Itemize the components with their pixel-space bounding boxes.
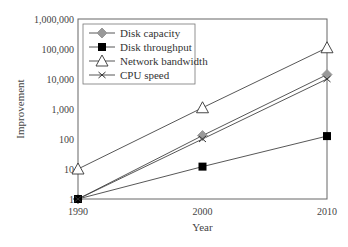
x-tick-label: 2010 — [317, 206, 337, 217]
square-marker — [323, 132, 331, 140]
diamond-marker — [322, 70, 332, 80]
x-tick-label: 1990 — [68, 206, 88, 217]
triangle-open-marker — [321, 42, 333, 53]
y-tick-label: 100 — [59, 134, 74, 145]
y-tick-label: 10,000 — [47, 74, 75, 85]
legend-label: Disk capacity — [120, 27, 181, 39]
y-tick-label: 100,000 — [42, 44, 75, 55]
y-tick-label: 1,000,000 — [34, 14, 74, 25]
square-marker — [199, 163, 207, 171]
legend-label: Disk throughput — [120, 41, 192, 53]
legend-label: Network bandwidth — [120, 55, 208, 67]
legend-label: CPU speed — [120, 69, 170, 81]
legend-square-icon — [98, 43, 106, 51]
triangle-open-marker — [197, 102, 209, 113]
y-tick-label: 1,000 — [52, 104, 75, 115]
line-chart: 1101001,00010,000100,0001,000,0001990200… — [0, 0, 348, 247]
y-axis-label: Improvement — [14, 79, 26, 138]
x-axis-label: Year — [192, 221, 213, 233]
x-tick-label: 2000 — [193, 206, 213, 217]
